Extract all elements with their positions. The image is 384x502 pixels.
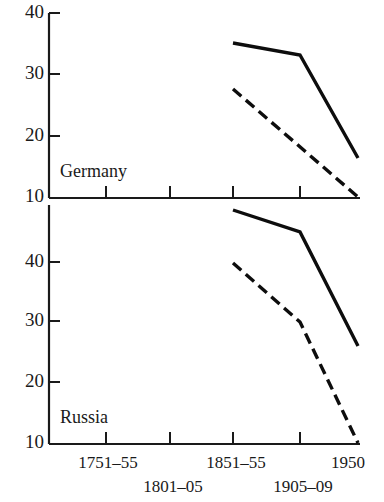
xtick-label-1950: 1950	[331, 453, 365, 472]
chart-figure: 40 30 20 10 Germany	[0, 0, 384, 502]
xtick-label-1751-55: 1751–55	[78, 453, 138, 472]
panel-label-germany: Germany	[60, 161, 127, 181]
russia-ytick-label-40: 40	[25, 250, 44, 271]
russia-ytick-label-20: 20	[25, 370, 44, 391]
germany-ytick-label-20: 20	[25, 124, 44, 145]
x-axis-labels: 1751–55 1851–55 1950 1801–05 1905–09	[78, 453, 365, 496]
xtick-label-1905-09: 1905–09	[273, 477, 333, 496]
panel-germany: 40 30 20 10 Germany	[25, 1, 360, 206]
germany-dashed-series	[233, 89, 358, 197]
russia-ytick-label-30: 30	[25, 309, 44, 330]
germany-ytick-label-40: 40	[25, 1, 44, 22]
xtick-label-1851-55: 1851–55	[206, 453, 266, 472]
germany-solid-series	[233, 43, 358, 158]
germany-ytick-label-10: 10	[25, 185, 44, 206]
germany-x-ticks	[106, 186, 300, 198]
panel-russia: 40 30 20 10 Russia	[25, 205, 360, 452]
two-panel-line-chart: 40 30 20 10 Germany	[0, 0, 384, 502]
russia-x-ticks	[106, 432, 300, 444]
xtick-label-1801-05: 1801–05	[143, 477, 203, 496]
russia-dashed-series	[233, 263, 358, 443]
russia-ytick-label-10: 10	[25, 431, 44, 452]
germany-ytick-label-30: 30	[25, 62, 44, 83]
panel-label-russia: Russia	[60, 407, 108, 427]
